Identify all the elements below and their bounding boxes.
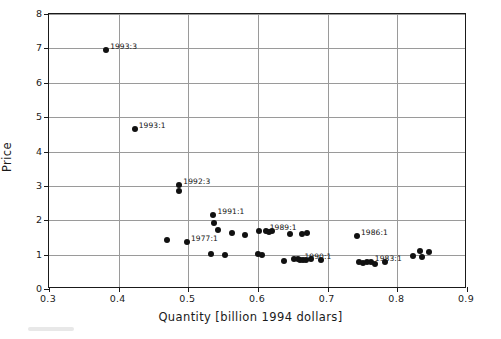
x-axis-tick (49, 287, 50, 292)
data-point (242, 232, 248, 238)
plot-area: 1993:31993:11992:31991:11977:11989:11990… (48, 13, 466, 288)
x-axis-tick (119, 287, 120, 292)
x-axis-tick (397, 287, 398, 292)
data-point (229, 230, 235, 236)
x-axis-tick-label: 0.6 (249, 293, 265, 304)
gridline-horizontal (49, 117, 465, 118)
y-axis-tick (44, 220, 49, 221)
y-axis-tick-label: 0 (30, 283, 42, 294)
y-axis-tick-label: 2 (30, 214, 42, 225)
page-artifact (28, 327, 74, 331)
point-annotation-label: 1986:1 (361, 228, 388, 237)
data-point (164, 237, 170, 243)
data-point (132, 126, 138, 132)
data-point (103, 47, 109, 53)
y-axis-tick (44, 83, 49, 84)
data-point (304, 230, 310, 236)
x-axis-title: Quantity [billion 1994 dollars] (0, 310, 501, 324)
gridline-vertical (397, 14, 398, 287)
gridline-vertical (258, 14, 259, 287)
data-point (410, 253, 416, 259)
x-axis-tick-label: 0.4 (110, 293, 126, 304)
y-axis-tick-label: 3 (30, 179, 42, 190)
y-axis-tick-label: 5 (30, 111, 42, 122)
y-axis-tick-label: 7 (30, 42, 42, 53)
y-axis-tick (44, 255, 49, 256)
data-point (417, 248, 423, 254)
gridline-horizontal (49, 220, 465, 221)
data-point (184, 239, 190, 245)
point-annotation-label: 1983:1 (375, 254, 402, 263)
x-axis-tick-label: 0.5 (179, 293, 195, 304)
point-annotation-label: 1989:1 (270, 223, 297, 232)
data-point (259, 252, 265, 258)
x-axis-tick (467, 287, 468, 292)
gridline-vertical (119, 14, 120, 287)
gridline-horizontal (49, 152, 465, 153)
gridline-horizontal (49, 186, 465, 187)
y-axis-tick (44, 152, 49, 153)
data-point (281, 258, 287, 264)
data-point (354, 233, 360, 239)
y-axis-tick (44, 186, 49, 187)
point-annotation-label: 1977:1 (191, 234, 218, 243)
data-point (419, 254, 425, 260)
data-point (426, 249, 432, 255)
point-annotation-label: 1993:3 (110, 42, 137, 51)
y-axis-tick-label: 1 (30, 248, 42, 259)
y-axis-title: Price (0, 142, 14, 172)
gridline-horizontal (49, 83, 465, 84)
gridline-horizontal (49, 14, 465, 15)
x-axis-tick (188, 287, 189, 292)
point-annotation-label: 1991:1 (217, 207, 244, 216)
data-point (210, 212, 216, 218)
point-annotation-label: 1993:1 (139, 121, 166, 130)
point-annotation-label: 1990:1 (304, 252, 331, 261)
point-annotation-label: 1992:3 (183, 177, 210, 186)
gridline-vertical (188, 14, 189, 287)
y-axis-tick-label: 8 (30, 8, 42, 19)
x-axis-tick-label: 0.3 (40, 293, 56, 304)
x-axis-tick (258, 287, 259, 292)
data-point (176, 188, 182, 194)
data-point (211, 220, 217, 226)
x-axis-tick-label: 0.9 (458, 293, 474, 304)
y-axis-tick (44, 14, 49, 15)
x-axis-tick (328, 287, 329, 292)
y-axis-tick (44, 48, 49, 49)
y-axis-tick-label: 4 (30, 145, 42, 156)
x-axis-tick-label: 0.8 (388, 293, 404, 304)
y-axis-tick-label: 6 (30, 76, 42, 87)
gridline-vertical (328, 14, 329, 287)
data-point (215, 227, 221, 233)
data-point (256, 228, 262, 234)
data-point (222, 252, 228, 258)
data-point (208, 251, 214, 257)
scatter-plot-figure: Price Quantity [billion 1994 dollars] 01… (0, 0, 501, 339)
y-axis-tick (44, 117, 49, 118)
x-axis-tick-label: 0.7 (319, 293, 335, 304)
